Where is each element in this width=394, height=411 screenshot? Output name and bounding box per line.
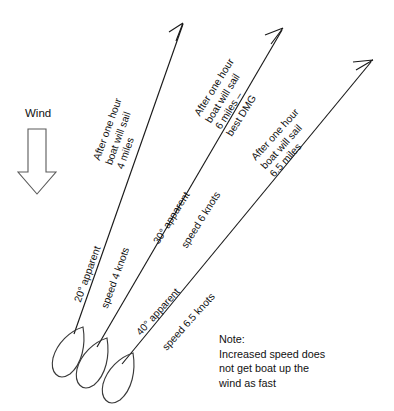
note-block: Note: Increased speed does not get boat … <box>219 332 325 391</box>
boat-hull-2 <box>76 338 108 388</box>
boat-hull-1 <box>52 327 84 377</box>
course-line-20 <box>74 23 183 334</box>
sailing-diagram: Wind After one hour boat will sail 4 mil… <box>0 0 394 411</box>
diagram-vector-layer <box>0 0 394 411</box>
wind-label: Wind <box>25 106 51 120</box>
block-arrow-down-icon <box>18 129 56 194</box>
